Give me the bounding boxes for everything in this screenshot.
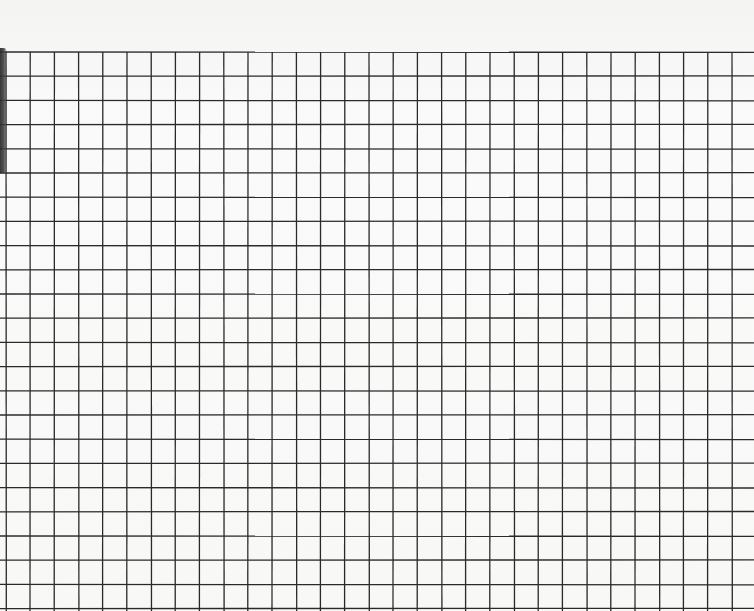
edge-shadow [0,48,7,173]
square-grid [0,0,754,611]
graph-paper-sheet [0,0,754,611]
